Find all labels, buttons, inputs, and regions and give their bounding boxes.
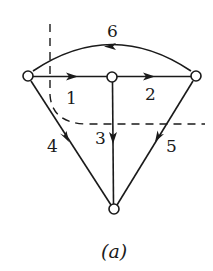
edge-label-3: 3 — [95, 128, 106, 148]
graph-diagram: 6 1 2 3 4 5 (a) — [0, 0, 213, 271]
node-right — [191, 71, 201, 81]
edge-label-5: 5 — [166, 136, 177, 156]
cut-line — [50, 24, 205, 124]
edge-label-1: 1 — [66, 88, 77, 108]
edge-label-6: 6 — [107, 21, 118, 41]
node-left — [23, 71, 33, 81]
arrow-5-icon — [155, 131, 164, 143]
edge-label-4: 4 — [47, 136, 58, 156]
node-middle — [107, 72, 117, 82]
node-bottom — [109, 204, 119, 214]
caption: (a) — [101, 240, 127, 262]
edge-label-2: 2 — [145, 84, 156, 104]
